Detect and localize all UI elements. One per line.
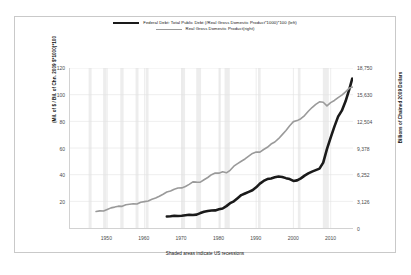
left-tick-label: 80 bbox=[45, 119, 65, 124]
left-tick-label: 120 bbox=[45, 66, 65, 71]
right-tick-label: 9,378 bbox=[357, 146, 370, 151]
right-axis-ticks: 03,1266,2529,37812,50415,63018,750 bbox=[357, 68, 383, 229]
plot-svg bbox=[70, 68, 353, 228]
left-tick-label: 60 bbox=[45, 146, 65, 151]
figure-frame: Federal Debt: Total Public Debt (/Real G… bbox=[14, 16, 396, 253]
left-tick-label: 20 bbox=[45, 200, 65, 205]
right-tick-label: 12,504 bbox=[357, 119, 372, 124]
chart-screenshot: Federal Debt: Total Public Debt (/Real G… bbox=[0, 0, 411, 275]
legend-swatch-federal-debt bbox=[113, 22, 139, 24]
left-axis-ticks: 20406080100120 bbox=[45, 68, 65, 229]
legend-item-federal-debt: Federal Debt: Total Public Debt (/Real G… bbox=[113, 21, 297, 25]
x-tick-label: 2000 bbox=[288, 236, 299, 241]
x-tick-label: 1980 bbox=[213, 236, 224, 241]
legend-item-real-gdp: Real Gross Domestic Product(right) bbox=[156, 27, 255, 31]
x-axis-ticks: 1950196019701980199020002010 bbox=[69, 236, 353, 246]
plot-wrapper bbox=[69, 68, 353, 229]
x-tick-label: 1950 bbox=[101, 236, 112, 241]
right-tick-label: 3,126 bbox=[357, 200, 370, 205]
left-tick-label: 100 bbox=[45, 92, 65, 97]
legend-swatch-real-gdp bbox=[156, 29, 182, 30]
chart-footnote: Shaded areas indicate US recessions bbox=[15, 251, 395, 256]
right-tick-label: 0 bbox=[357, 227, 360, 232]
right-tick-label: 6,252 bbox=[357, 173, 370, 178]
legend-label-federal-debt: Federal Debt: Total Public Debt (/Real G… bbox=[143, 21, 297, 25]
plot-area bbox=[69, 68, 353, 229]
x-tick-label: 1990 bbox=[250, 236, 261, 241]
chart-legend: Federal Debt: Total Public Debt (/Real G… bbox=[15, 21, 395, 31]
right-axis-title: Billions of Chained 2009 Dollars bbox=[398, 33, 403, 183]
legend-label-real-gdp: Real Gross Domestic Product(right) bbox=[186, 27, 255, 31]
left-tick-label: 40 bbox=[45, 173, 65, 178]
x-tick-label: 1970 bbox=[176, 236, 187, 241]
x-tick-label: 1960 bbox=[138, 236, 149, 241]
right-tick-label: 15,630 bbox=[357, 92, 372, 97]
right-tick-label: 18,750 bbox=[357, 66, 372, 71]
x-tick-label: 2010 bbox=[325, 236, 336, 241]
